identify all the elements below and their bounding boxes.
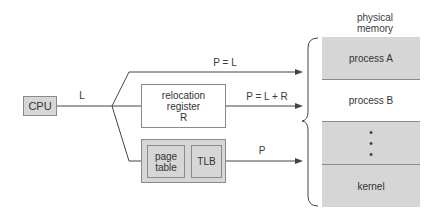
cpu-label: CPU <box>28 101 51 112</box>
page-table-line2: table <box>155 162 177 173</box>
relocation-line3: R <box>180 112 187 123</box>
page-table-box: page table <box>147 145 185 178</box>
relocation-line1: relocation <box>162 90 205 101</box>
arrow-head-icon <box>295 69 303 75</box>
relocation-output-label: P = L + R <box>232 91 302 102</box>
segment-label: kernel <box>357 181 384 192</box>
paging-output-label: P <box>255 145 269 156</box>
logical-address-label: L <box>76 90 88 101</box>
tlb-label: TLB <box>197 156 215 167</box>
relocation-line2: register <box>167 101 200 112</box>
memory-segment-process-a: process A <box>322 37 420 80</box>
relocation-register-box: relocation register R <box>141 84 226 128</box>
ellipsis-dots-icon: • • • <box>369 127 373 160</box>
physical-memory: process A process B • • • kernel <box>322 37 420 207</box>
segment-label: process A <box>349 53 393 64</box>
cpu-box: CPU <box>23 96 57 116</box>
page-table-line1: page <box>155 151 177 162</box>
memory-title-line2: memory <box>340 23 410 34</box>
paging-unit-box: page table TLB <box>141 139 226 183</box>
memory-segment-process-b: process B <box>322 80 420 122</box>
tlb-box: TLB <box>191 145 222 178</box>
memory-title: physical memory <box>340 12 410 34</box>
memory-title-line1: physical <box>340 12 410 23</box>
memory-segment-ellipsis: • • • <box>322 122 420 165</box>
segment-label: process B <box>349 95 393 106</box>
memory-segment-kernel: kernel <box>322 165 420 207</box>
top-path-label: P = L <box>195 57 255 68</box>
